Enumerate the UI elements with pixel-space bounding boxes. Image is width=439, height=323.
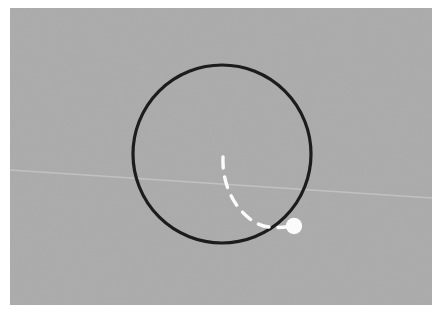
film-grain-overlay — [10, 8, 432, 305]
white-marker-dot — [286, 218, 302, 234]
photo-region — [10, 8, 432, 305]
image-canvas — [0, 0, 439, 323]
figure-svg — [0, 0, 439, 323]
